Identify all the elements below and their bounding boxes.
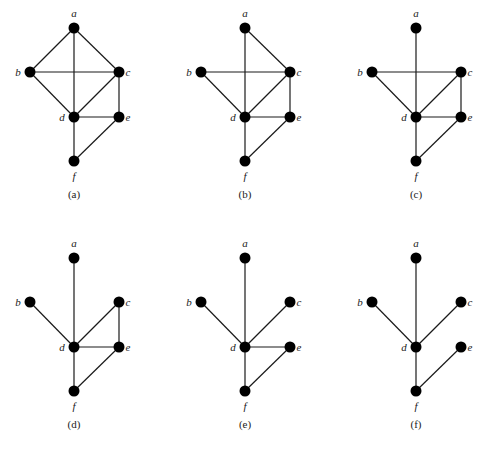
vertex-label-f: f [72, 170, 77, 182]
graph-panel-b: abcdef(b) [186, 7, 301, 201]
vertex-f [411, 156, 422, 167]
edge-b-d [201, 302, 245, 347]
vertex-label-c: c [126, 66, 131, 78]
vertex-c [456, 297, 467, 308]
vertex-b [25, 67, 36, 78]
vertex-d [411, 342, 422, 353]
edge-b-d [201, 72, 245, 117]
vertex-e [285, 342, 296, 353]
edge-e-f [74, 347, 119, 391]
vertex-c [114, 67, 125, 78]
vertex-label-e: e [468, 341, 473, 353]
vertex-b [25, 297, 36, 308]
graph-panel-d: abcdef(d) [15, 237, 130, 431]
vertex-label-a: a [242, 237, 248, 249]
vertex-label-f: f [72, 400, 77, 412]
edge-c-d [416, 302, 461, 347]
vertex-label-e: e [297, 341, 302, 353]
vertex-d [240, 112, 251, 123]
vertex-e [285, 112, 296, 123]
vertex-label-f: f [414, 170, 419, 182]
edge-c-d [74, 302, 119, 347]
edge-e-f [245, 117, 290, 161]
vertex-c [285, 67, 296, 78]
edge-e-f [416, 117, 461, 161]
vertex-label-e: e [468, 111, 473, 123]
edge-e-f [74, 117, 119, 161]
vertex-d [69, 342, 80, 353]
graph-panel-c: abcdef(c) [357, 7, 472, 201]
vertex-f [69, 156, 80, 167]
vertex-label-c: c [126, 296, 131, 308]
vertex-a [240, 253, 251, 264]
vertex-b [367, 67, 378, 78]
edge-a-c [74, 28, 119, 72]
vertex-e [456, 342, 467, 353]
vertex-d [69, 112, 80, 123]
edge-a-c [245, 28, 290, 72]
graph-panel-a: abcdef(a) [15, 7, 130, 201]
edge-b-d [372, 302, 416, 347]
vertex-label-a: a [71, 237, 77, 249]
vertex-a [69, 253, 80, 264]
vertex-e [456, 112, 467, 123]
vertex-label-e: e [297, 111, 302, 123]
vertex-label-f: f [414, 400, 419, 412]
vertex-d [411, 112, 422, 123]
vertex-label-a: a [71, 7, 77, 19]
panel-caption: (c) [410, 188, 423, 201]
vertex-label-c: c [468, 66, 473, 78]
vertex-label-f: f [243, 400, 248, 412]
vertex-a [411, 253, 422, 264]
vertex-label-a: a [242, 7, 248, 19]
edge-c-d [74, 72, 119, 117]
vertex-e [114, 112, 125, 123]
vertex-label-b: b [15, 296, 21, 308]
vertex-f [240, 386, 251, 397]
panel-caption: (f) [411, 418, 422, 431]
vertex-label-c: c [297, 66, 302, 78]
vertex-label-d: d [230, 341, 236, 353]
vertex-label-e: e [126, 111, 131, 123]
edge-c-d [245, 302, 290, 347]
vertex-b [367, 297, 378, 308]
vertex-b [196, 67, 207, 78]
vertex-e [114, 342, 125, 353]
vertex-d [240, 342, 251, 353]
panel-caption: (e) [239, 418, 252, 431]
edge-c-d [416, 72, 461, 117]
vertex-label-e: e [126, 341, 131, 353]
edge-e-f [245, 347, 290, 391]
edge-b-d [372, 72, 416, 117]
vertex-a [411, 23, 422, 34]
vertex-f [411, 386, 422, 397]
vertex-label-b: b [186, 66, 192, 78]
vertex-b [196, 297, 207, 308]
vertex-label-d: d [230, 111, 236, 123]
panel-caption: (a) [68, 188, 81, 201]
vertex-label-b: b [357, 296, 363, 308]
vertex-f [240, 156, 251, 167]
vertex-f [69, 386, 80, 397]
vertex-c [114, 297, 125, 308]
vertex-a [240, 23, 251, 34]
vertex-c [456, 67, 467, 78]
graph-panel-f: abcdef(f) [357, 237, 472, 431]
edge-e-f [416, 347, 461, 391]
vertex-label-a: a [413, 237, 419, 249]
vertex-label-d: d [59, 111, 65, 123]
graph-sequence-figure: abcdef(a)abcdef(b)abcdef(c)abcdef(d)abcd… [0, 0, 485, 450]
graph-panel-e: abcdef(e) [186, 237, 301, 431]
vertex-label-b: b [357, 66, 363, 78]
edge-c-d [245, 72, 290, 117]
panel-caption: (b) [239, 188, 252, 201]
edge-a-b [30, 28, 74, 72]
vertex-label-d: d [401, 111, 407, 123]
vertex-label-a: a [413, 7, 419, 19]
vertex-a [69, 23, 80, 34]
panel-caption: (d) [68, 418, 81, 431]
vertex-label-b: b [186, 296, 192, 308]
vertex-c [285, 297, 296, 308]
vertex-label-d: d [59, 341, 65, 353]
vertex-label-c: c [468, 296, 473, 308]
